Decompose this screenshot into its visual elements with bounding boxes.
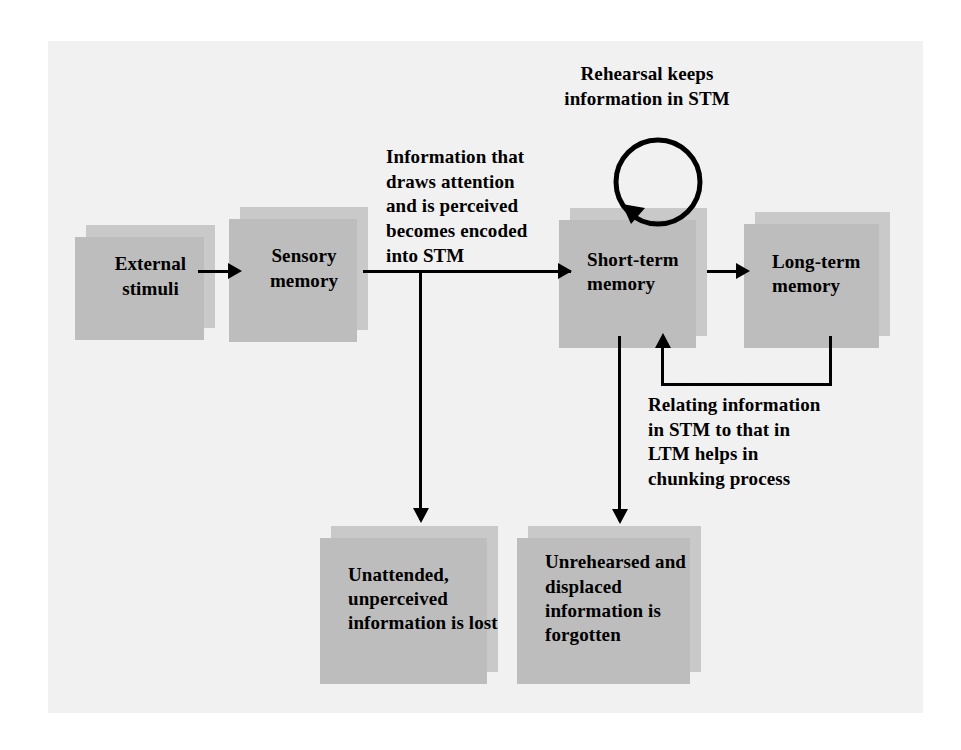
connector-ltm-feedback-arrowhead: [655, 333, 671, 348]
node-sensory-memory-label: Sensory memory: [240, 244, 368, 293]
connector-stm-to-ltm-arrowhead: [736, 263, 750, 279]
connector-ltm-feedback-up-line: [661, 345, 664, 385]
rehearsal-loop-icon: [598, 130, 718, 240]
chunking-caption: Relating information in STM to that in L…: [648, 393, 878, 492]
connector-stm-to-forgotten-line: [618, 336, 621, 521]
encoding-caption: Information that draws attention and is …: [386, 145, 586, 268]
connector-sensory-to-stm-line: [363, 270, 571, 273]
node-long-term-memory[interactable]: Long-term memory: [755, 212, 890, 336]
node-long-term-memory-label: Long-term memory: [755, 250, 890, 299]
node-short-term-memory-label: Short-term memory: [570, 248, 707, 297]
connector-stm-to-forgotten-arrowhead: [612, 509, 628, 524]
diagram-canvas: Rehearsal keeps information in STM Infor…: [0, 0, 961, 750]
node-external-stimuli[interactable]: External stimuli: [86, 225, 215, 328]
node-unattended-lost[interactable]: Unattended, unperceived information is l…: [331, 526, 498, 672]
connector-ltm-feedback-across-line: [661, 383, 832, 386]
node-unrehearsed-forgotten-label: Unrehearsed and displaced information is…: [528, 550, 701, 647]
connector-sensory-to-lost-line: [419, 270, 422, 520]
node-unattended-lost-label: Unattended, unperceived information is l…: [331, 563, 498, 636]
node-unrehearsed-forgotten[interactable]: Unrehearsed and displaced information is…: [528, 526, 701, 672]
rehearsal-caption: Rehearsal keeps information in STM: [522, 62, 772, 111]
node-sensory-memory[interactable]: Sensory memory: [240, 207, 368, 330]
connector-sensory-to-lost-arrowhead: [413, 508, 429, 523]
node-external-stimuli-label: External stimuli: [86, 252, 215, 301]
connector-stimuli-to-sensory-arrowhead: [228, 263, 242, 279]
connector-ltm-feedback-down-line: [829, 336, 832, 386]
